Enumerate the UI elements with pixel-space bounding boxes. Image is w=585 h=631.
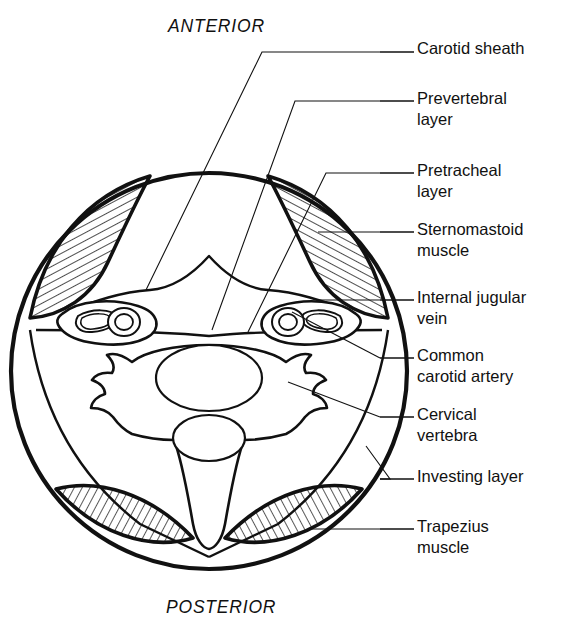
carotid-sheath-right xyxy=(262,301,361,344)
vertebral-canal xyxy=(173,415,245,461)
callout-label-common-carotid-artery: Common carotid artery xyxy=(417,345,513,386)
callout-label-pretracheal-layer: Pretracheal layer xyxy=(417,160,501,201)
common-carotid-artery-left xyxy=(108,308,140,336)
carotid-sheath-left xyxy=(57,301,156,344)
orientation-label-anterior: ANTERIOR xyxy=(168,16,265,37)
anatomy-figure-page: ANTERIOR POSTERIOR Carotid sheath Prever… xyxy=(0,0,585,631)
callout-label-carotid-sheath: Carotid sheath xyxy=(417,38,524,59)
callout-label-investing-layer: Investing layer xyxy=(417,466,523,487)
callout-label-internal-jugular-vein: Internal jugular vein xyxy=(417,287,526,328)
callout-label-trapezius-muscle: Trapezius muscle xyxy=(417,516,489,557)
orientation-label-posterior: POSTERIOR xyxy=(166,597,276,618)
vertebral-body xyxy=(156,345,262,411)
common-carotid-artery-right xyxy=(272,308,304,336)
callout-label-cervical-vertebra: Cervical vertebra xyxy=(417,404,478,445)
callout-label-sternomastoid-muscle: Sternomastoid muscle xyxy=(417,219,523,260)
callout-label-prevertebral-layer: Prevertebral layer xyxy=(417,88,507,129)
